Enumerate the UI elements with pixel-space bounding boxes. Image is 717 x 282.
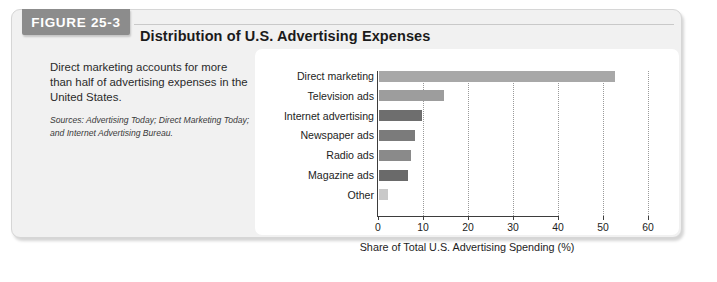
bar-magazine-ads [379,170,408,181]
gridline-30 [513,71,515,216]
tick-label-50: 50 [597,222,609,233]
gridline-50 [603,71,605,216]
y-axis-line [377,71,378,217]
caption-block: Direct marketing accounts for more than … [50,60,250,140]
tick-20 [468,216,469,220]
category-label-direct-marketing: Direct marketing [297,70,374,82]
gridline-60 [648,71,650,216]
figure-number-tab: FIGURE 25-3 [22,9,130,35]
bar-newspaper-ads [379,130,415,141]
tick-label-60: 60 [642,222,654,233]
chart-panel: Direct marketingTelevision adsInternet a… [255,49,679,235]
tick-label-30: 30 [507,222,519,233]
bar-chart-plot-area: Direct marketingTelevision adsInternet a… [255,49,679,235]
tick-label-0: 0 [375,222,381,233]
gridline-20 [468,71,470,216]
bar-direct-marketing [379,71,615,82]
tick-label-20: 20 [462,222,474,233]
category-label-internet-advertising: Internet advertising [284,110,374,122]
category-label-television-ads: Television ads [307,90,374,102]
figure-sources: Sources: Advertising Today; Direct Marke… [50,114,250,140]
figure-number-label: FIGURE 25-3 [31,15,120,30]
x-axis-title: Share of Total U.S. Advertising Spending… [255,241,679,253]
category-label-radio-ads: Radio ads [326,149,374,161]
category-label-magazine-ads: Magazine ads [308,169,374,181]
tick-label-10: 10 [417,222,429,233]
category-label-newspaper-ads: Newspaper ads [300,129,374,141]
tick-60 [648,216,649,220]
tick-50 [603,216,604,220]
bar-radio-ads [379,150,411,161]
figure-title: Distribution of U.S. Advertising Expense… [140,28,430,44]
tick-label-40: 40 [552,222,564,233]
figure-panel: FIGURE 25-3 Distribution of U.S. Adverti… [11,9,682,238]
tick-0 [378,216,379,220]
tick-10 [423,216,424,220]
bar-internet-advertising [379,110,422,121]
gridline-40 [558,71,560,216]
figure-caption: Direct marketing accounts for more than … [50,60,250,105]
bar-television-ads [379,90,444,101]
bar-other [379,189,388,200]
tick-30 [513,216,514,220]
title-divider [134,24,674,25]
tick-40 [558,216,559,220]
category-label-other: Other [348,189,375,201]
